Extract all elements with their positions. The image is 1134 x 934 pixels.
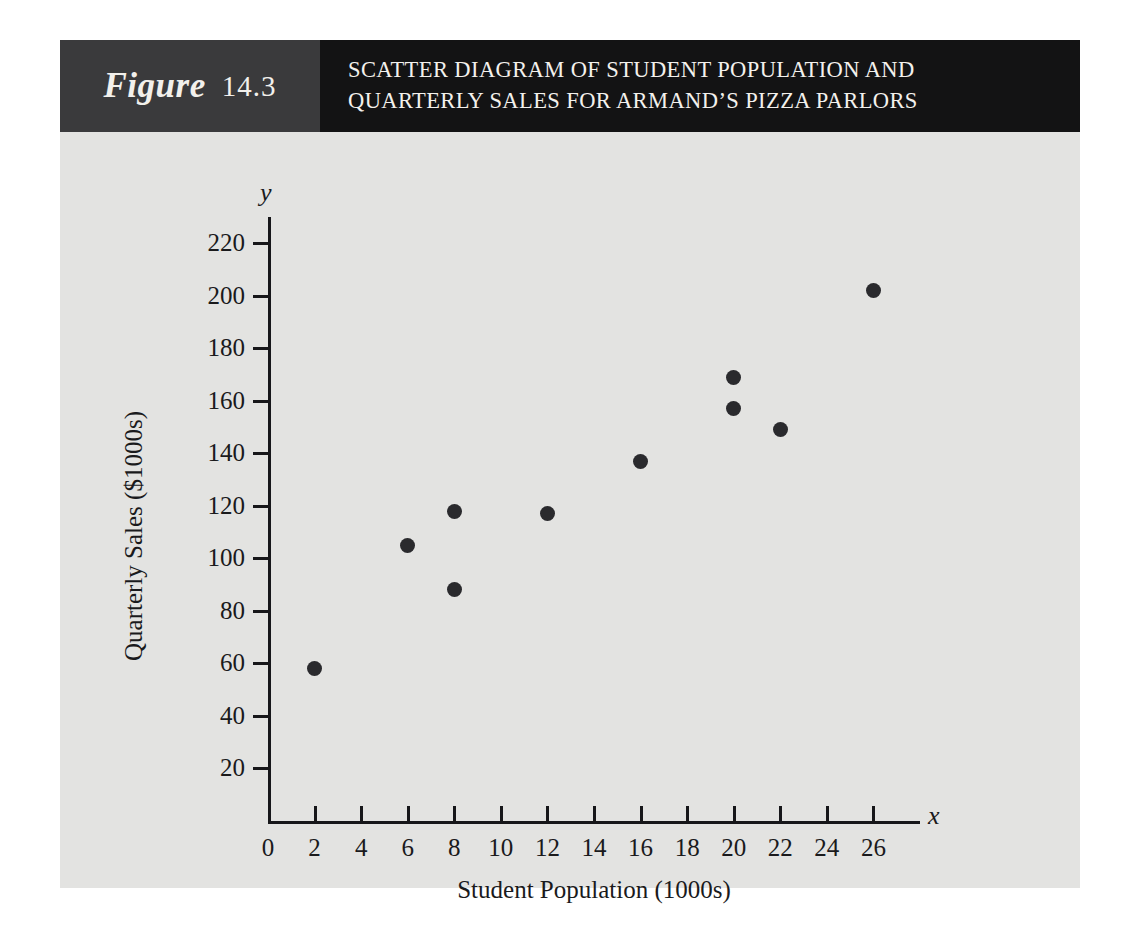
x-tick-label: 20: [711, 835, 757, 860]
y-tick-label: 200: [173, 283, 245, 308]
x-tick: [686, 806, 689, 821]
x-tick-label: 8: [431, 835, 477, 860]
y-tick-label: 20: [173, 755, 245, 780]
y-tick: [253, 452, 268, 455]
figure-label-box: Figure 14.3: [60, 40, 320, 132]
x-tick: [500, 806, 503, 821]
data-point: [540, 506, 555, 521]
x-tick-label: 0: [245, 835, 291, 860]
x-tick: [779, 806, 782, 821]
y-tick-label: 220: [173, 230, 245, 255]
y-tick-label: 180: [173, 335, 245, 360]
x-tick-label: 10: [478, 835, 524, 860]
figure-title-box: SCATTER DIAGRAM OF STUDENT POPULATION AN…: [320, 40, 1080, 132]
x-tick: [733, 806, 736, 821]
y-tick: [253, 400, 268, 403]
data-point: [773, 422, 788, 437]
x-tick-label: 16: [618, 835, 664, 860]
y-tick-label: 40: [173, 703, 245, 728]
figure-page: Figure 14.3 SCATTER DIAGRAM OF STUDENT P…: [0, 0, 1134, 934]
y-axis-variable-name: y: [260, 178, 272, 208]
x-tick: [872, 806, 875, 821]
x-tick: [546, 806, 549, 821]
y-axis-line: [268, 217, 271, 824]
y-tick-label: 60: [173, 650, 245, 675]
x-tick: [826, 806, 829, 821]
y-tick: [253, 557, 268, 560]
x-tick-label: 12: [524, 835, 570, 860]
figure-word-label: Figure: [104, 66, 206, 106]
data-point: [400, 538, 415, 553]
figure-title-line-1: SCATTER DIAGRAM OF STUDENT POPULATION AN…: [348, 55, 1080, 86]
x-tick: [640, 806, 643, 821]
figure-panel: Figure 14.3 SCATTER DIAGRAM OF STUDENT P…: [60, 40, 1080, 888]
y-tick-label: 160: [173, 388, 245, 413]
x-tick-label: 6: [385, 835, 431, 860]
x-tick: [360, 806, 363, 821]
x-tick-label: 4: [338, 835, 384, 860]
y-tick: [253, 767, 268, 770]
data-point: [447, 582, 462, 597]
figure-number-label: 14.3: [222, 70, 277, 103]
data-point: [307, 661, 322, 676]
x-tick-label: 26: [850, 835, 896, 860]
y-tick: [253, 295, 268, 298]
y-tick: [253, 242, 268, 245]
figure-title-line-2: QUARTERLY SALES FOR ARMAND’S PIZZA PARLO…: [348, 86, 1080, 117]
data-point: [633, 454, 648, 469]
data-point: [726, 370, 741, 385]
data-point: [447, 504, 462, 519]
x-axis-title: Student Population (1000s): [268, 876, 920, 904]
x-axis-line: [268, 821, 920, 824]
x-axis-variable-name: x: [928, 801, 940, 831]
data-point: [726, 401, 741, 416]
x-tick: [453, 806, 456, 821]
x-tick: [593, 806, 596, 821]
scatter-plot: y x 20406080100120140160180200220 024681…: [60, 132, 1080, 888]
x-tick-label: 2: [292, 835, 338, 860]
x-tick-label: 14: [571, 835, 617, 860]
x-tick-label: 24: [804, 835, 850, 860]
y-tick: [253, 715, 268, 718]
y-tick-label: 100: [173, 545, 245, 570]
y-tick-label: 120: [173, 493, 245, 518]
figure-header-bar: Figure 14.3 SCATTER DIAGRAM OF STUDENT P…: [60, 40, 1080, 132]
y-tick: [253, 505, 268, 508]
y-tick-label: 80: [173, 598, 245, 623]
x-tick-label: 18: [664, 835, 710, 860]
y-axis-title: Quarterly Sales ($1000s): [120, 356, 148, 716]
x-tick: [314, 806, 317, 821]
y-tick: [253, 662, 268, 665]
x-tick-label: 22: [757, 835, 803, 860]
y-tick-label: 140: [173, 440, 245, 465]
data-point: [866, 283, 881, 298]
y-tick: [253, 610, 268, 613]
x-tick: [407, 806, 410, 821]
y-tick: [253, 347, 268, 350]
